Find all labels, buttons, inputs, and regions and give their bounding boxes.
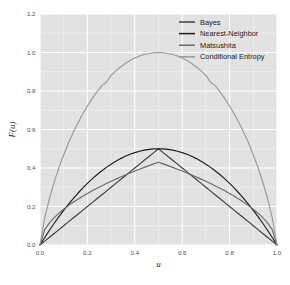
x-tick-label: 0.0 xyxy=(36,249,45,256)
legend-label-conditional-entropy: Conditional Entropy xyxy=(200,52,265,61)
x-tick-label: 0.4 xyxy=(130,249,139,256)
x-tick-label: 0.8 xyxy=(225,249,234,256)
x-tick-label: 0.6 xyxy=(178,249,187,256)
legend-label-matsushita: Matsushita xyxy=(200,41,237,50)
chart-figure: 0.00.20.40.60.81.0 0.00.20.40.60.81.01.2… xyxy=(0,0,290,285)
y-tick-label: 0.4 xyxy=(27,164,36,171)
y-tick-label: 1.2 xyxy=(27,10,36,17)
legend-label-nearest-neighbor: Nearest-Neighbor xyxy=(200,29,259,38)
line-chart: 0.00.20.40.60.81.0 0.00.20.40.60.81.01.2… xyxy=(0,0,290,285)
y-axis-title: F(u) xyxy=(7,122,17,139)
y-tick-label: 1.0 xyxy=(27,49,36,56)
x-axis-title: u xyxy=(156,259,161,269)
y-tick-label: 0.0 xyxy=(27,241,36,248)
legend-label-bayes: Bayes xyxy=(200,18,221,27)
y-tick-label: 0.8 xyxy=(27,87,36,94)
y-tick-label: 0.6 xyxy=(27,126,36,133)
y-tick-label: 0.2 xyxy=(27,203,36,210)
x-tick-label: 0.2 xyxy=(83,249,92,256)
x-tick-label: 1.0 xyxy=(273,249,282,256)
